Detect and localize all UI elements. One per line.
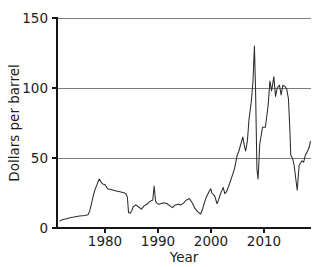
- x-tick-label-2000: 2000: [194, 233, 228, 249]
- y-tick-label-100: 100: [22, 80, 48, 96]
- x-tick-label-1990: 1990: [141, 233, 175, 249]
- y-tick-labels: 150 100 50 0: [22, 10, 48, 236]
- oil-price-chart: 150 100 50 0 1980 1990 2000 2010 Year Do…: [0, 0, 322, 267]
- gridlines: [57, 18, 311, 158]
- axes: [56, 17, 311, 229]
- y-tick-label-50: 50: [31, 150, 48, 166]
- y-tick-label-150: 150: [22, 10, 48, 26]
- oil-price-line: [60, 46, 311, 221]
- x-tick-label-2010: 2010: [247, 233, 281, 249]
- x-axis-title: Year: [169, 249, 199, 265]
- y-axis-title: Dollars per barrel: [6, 64, 22, 182]
- x-tick-label-1980: 1980: [88, 233, 122, 249]
- y-tick-label-0: 0: [39, 220, 48, 236]
- chart-canvas: 150 100 50 0 1980 1990 2000 2010 Year Do…: [0, 0, 322, 267]
- x-tick-labels: 1980 1990 2000 2010: [88, 233, 281, 249]
